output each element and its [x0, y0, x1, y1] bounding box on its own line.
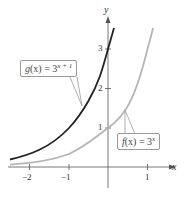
- y-tick-label: 3: [98, 44, 103, 53]
- g-callout-leader: [70, 77, 82, 106]
- y-axis-label: y: [104, 5, 108, 15]
- g-func-exponent: x + 1: [57, 62, 72, 70]
- y-tick-label: 2: [98, 84, 103, 93]
- y-tick-label: 1: [98, 123, 103, 132]
- f-callout-leader: [125, 110, 135, 134]
- x-tick-label: −2: [22, 173, 32, 182]
- g-func-body: (x) = 3: [30, 63, 57, 74]
- g-legend-callout: g(x) = 3x + 1: [20, 60, 77, 77]
- chart-canvas: [0, 0, 191, 198]
- y-axis-arrow-icon: [106, 16, 111, 23]
- x-axis-label: x: [172, 162, 176, 172]
- x-tick-label: 1: [145, 173, 150, 182]
- f-func-body: (x) = 3: [125, 136, 152, 147]
- f-legend-callout: f(x) = 3x: [117, 133, 160, 150]
- x-tick-label: −1: [61, 173, 71, 182]
- f-func-exponent: x: [152, 135, 155, 143]
